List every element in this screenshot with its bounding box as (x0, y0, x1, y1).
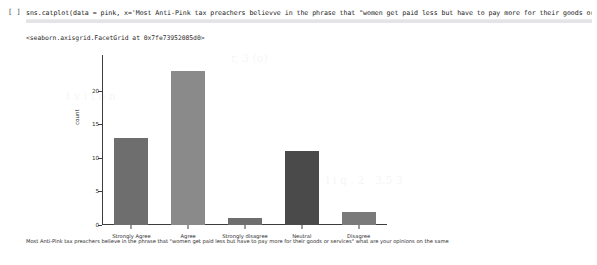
bar (228, 218, 262, 225)
chart-figure: r, 3 (o) t v i t o n l i q . 2 3.5 3 cou… (26, 46, 574, 258)
bar (171, 71, 205, 225)
bar (342, 212, 376, 225)
code-input-line[interactable]: sns.catplot(data = pink, x='Most Anti-Pi… (26, 8, 592, 18)
y-axis-label: count (74, 109, 80, 125)
x-tick-mark (358, 225, 359, 229)
bar-series: Strongly AgreeAgreeStrongly disagreeNeut… (103, 64, 387, 225)
notebook-cell: [ ] sns.catplot(data = pink, x='Most Ant… (0, 0, 597, 265)
bar-group: Disagree (330, 64, 387, 225)
x-tick-mark (301, 225, 302, 229)
bar-group: Strongly disagree (217, 64, 274, 225)
y-tick-label: 0 (95, 222, 99, 228)
code-scrollbar[interactable] (26, 19, 592, 23)
screenshot-root: [ ] sns.catplot(data = pink, x='Most Ant… (0, 0, 597, 265)
plot-area: count 05101520 Strongly AgreeAgreeStrong… (102, 55, 387, 234)
y-tick-label: 15 (92, 121, 99, 127)
y-tick-label: 10 (92, 155, 99, 161)
bar (285, 151, 319, 225)
x-tick-mark (188, 225, 189, 229)
bar-group: Agree (160, 64, 217, 225)
bar (114, 138, 148, 225)
cell-prompt-label[interactable]: [ ] (8, 8, 22, 18)
y-tick-label: 20 (92, 88, 99, 94)
x-axis-label: Most Anti-Pink tax preachers believe in … (26, 238, 586, 244)
y-tick-label: 5 (95, 188, 99, 194)
bar-group: Neutral (273, 64, 330, 225)
x-tick-mark (131, 225, 132, 229)
x-tick-mark (244, 225, 245, 229)
bar-group: Strongly Agree (103, 64, 160, 225)
output-repr-text: <seaborn.axisgrid.FacetGrid at 0x7fe7395… (26, 33, 204, 43)
